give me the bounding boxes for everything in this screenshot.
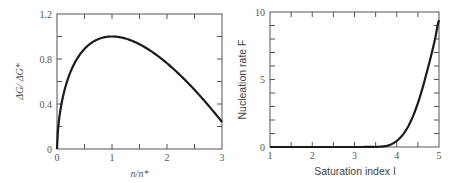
x-axis-label: n/n* [131,168,149,179]
x-tick-label: 5 [437,150,442,161]
tick-marks [270,12,439,147]
x-tick-label: 4 [394,150,399,161]
y-tick-label: 0 [47,144,52,155]
x-tick-label: 0 [55,152,60,163]
chart-gibbs-energy: 012300.40.81.2 n/n* ΔG/ ΔG* [14,9,225,180]
chart-nucleation-rate: 123450510 Saturation index I Nucleation … [236,7,442,178]
x-tick-label: 1 [110,152,115,163]
y-tick-label: 1.2 [40,9,53,20]
x-tick-label: 3 [352,150,357,161]
x-axis-label: Saturation index I [314,165,396,177]
x-tick-label: 2 [310,150,315,161]
y-tick-label: 0.4 [40,99,53,110]
chart-figure: 012300.40.81.2 n/n* ΔG/ ΔG* 123450510 Sa… [0,0,455,183]
plot-frame [270,12,439,147]
tick-marks [57,14,222,149]
tick-labels: 123450510 [255,7,442,162]
data-line [57,37,222,150]
y-axis-label: ΔG/ ΔG* [14,63,25,100]
y-tick-label: 5 [260,74,265,85]
x-tick-label: 1 [268,150,273,161]
y-axis-label: Nucleation rate F [236,40,248,120]
plot-frame [57,14,222,149]
data-line [270,20,439,147]
y-tick-label: 0.8 [40,54,53,65]
x-tick-label: 2 [165,152,170,163]
y-tick-label: 10 [255,7,265,18]
y-tick-label: 0 [260,142,265,153]
x-tick-label: 3 [220,152,225,163]
tick-labels: 012300.40.81.2 [40,9,225,164]
